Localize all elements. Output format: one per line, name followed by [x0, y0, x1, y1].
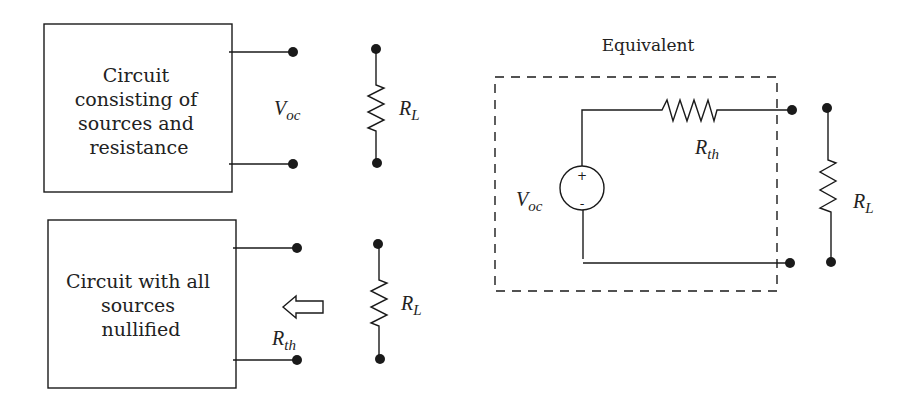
panel-original-circuit: Circuit consisting of sources and resist…	[44, 24, 420, 192]
load-resistor-icon	[371, 239, 387, 364]
rth-label: Rth	[694, 136, 719, 162]
terminal-node-icon	[288, 47, 298, 57]
rl-label: RL	[852, 190, 874, 216]
svg-text:+: +	[577, 169, 587, 183]
rl-label: RL	[398, 97, 420, 123]
svg-text:-: -	[580, 196, 585, 211]
thevenin-diagram: Circuit consisting of sources and resist…	[0, 0, 911, 407]
terminal-node-icon	[292, 243, 302, 253]
equivalent-title: Equivalent	[602, 35, 695, 55]
series-resistor-icon	[582, 100, 792, 166]
box-text: Circuit with all sources nullified	[66, 270, 216, 340]
rl-label: RL	[400, 292, 422, 318]
voc-label: Voc	[274, 97, 301, 123]
rth-label: Rth	[271, 327, 296, 353]
terminal-node-icon	[292, 355, 302, 365]
voltage-source-icon: + -	[560, 166, 604, 211]
terminal-node-icon	[787, 105, 797, 115]
panel-equivalent-circuit: Equivalent + - Voc Rth RL	[495, 35, 874, 291]
terminal-node-icon	[785, 258, 795, 268]
terminal-node-icon	[288, 159, 298, 169]
left-arrow-icon	[283, 296, 323, 318]
load-resistor-icon	[368, 44, 384, 168]
panel-nullified-circuit: Circuit with all sources nullified Rth R…	[48, 220, 422, 388]
load-resistor-icon	[820, 103, 836, 267]
equivalent-boundary	[495, 77, 777, 291]
voc-label: Voc	[516, 188, 543, 214]
box-text: Circuit consisting of sources and resist…	[75, 64, 204, 158]
